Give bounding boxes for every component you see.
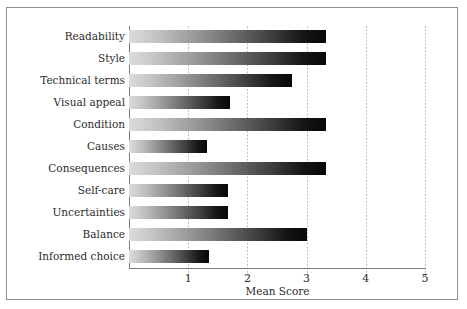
bar-row <box>129 202 425 224</box>
bar <box>129 118 326 131</box>
bar-row <box>129 224 425 246</box>
plot-area <box>129 26 425 268</box>
y-axis-tick-label: Self-care <box>9 184 125 196</box>
y-axis-tick-label: Balance <box>9 228 125 240</box>
y-axis-tick-label: Style <box>9 52 125 64</box>
x-axis-tick-label: 3 <box>292 272 322 285</box>
bar-row <box>129 136 425 158</box>
bar-row <box>129 180 425 202</box>
bar <box>129 140 207 153</box>
bar <box>129 96 230 109</box>
y-axis-tick-label: Visual appeal <box>9 96 125 108</box>
bar-row <box>129 70 425 92</box>
figure-frame: ReadabilityStyleTechnical termsVisual ap… <box>6 7 458 300</box>
y-axis-tick-label: Causes <box>9 140 125 152</box>
figure-canvas: ReadabilityStyleTechnical termsVisual ap… <box>0 0 467 309</box>
bar-row <box>129 114 425 136</box>
bar <box>129 250 209 263</box>
y-axis-tick-label: Readability <box>9 30 125 42</box>
bar <box>129 206 228 219</box>
bar-row <box>129 92 425 114</box>
x-axis-tick-label: 2 <box>232 272 262 285</box>
x-axis-line <box>129 268 426 269</box>
y-axis-tick-label: Uncertainties <box>9 206 125 218</box>
y-axis-tick-label: Consequences <box>9 162 125 174</box>
x-axis-tick-label: 4 <box>351 272 381 285</box>
bar <box>129 74 292 87</box>
x-axis-tick-label: 1 <box>173 272 203 285</box>
bar <box>129 30 326 43</box>
y-axis-tick-label: Technical terms <box>9 74 125 86</box>
y-axis-category-labels: ReadabilityStyleTechnical termsVisual ap… <box>7 26 125 268</box>
y-axis-tick-label: Condition <box>9 118 125 130</box>
bar-row <box>129 48 425 70</box>
gridline <box>425 26 426 276</box>
bar <box>129 228 307 241</box>
x-axis-title: Mean Score <box>129 285 426 297</box>
y-axis-tick-label: Informed choice <box>9 250 125 262</box>
bar-row <box>129 246 425 268</box>
bar <box>129 184 228 197</box>
bar <box>129 52 326 65</box>
bar-row <box>129 158 425 180</box>
bar <box>129 162 326 175</box>
bar-row <box>129 26 425 48</box>
x-axis-tick-label: 5 <box>410 272 440 285</box>
